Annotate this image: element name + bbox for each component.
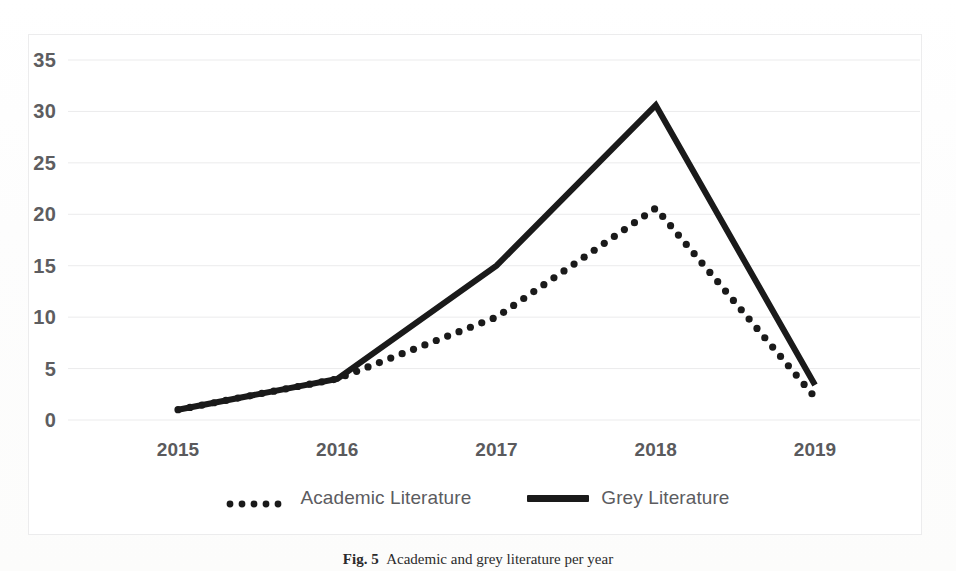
solid-line-swatch-icon (527, 495, 589, 502)
y-axis-tick-label: 0 (12, 410, 56, 430)
y-axis-tick-label: 30 (12, 101, 56, 121)
figure-caption-prefix: Fig. 5 (343, 551, 379, 567)
y-axis-tick-label: 20 (12, 204, 56, 224)
x-axis-tick-label: 2015 (133, 440, 223, 459)
x-axis-tick-label: 2019 (770, 440, 860, 459)
dotted-line-swatch-icon (226, 494, 288, 502)
legend-item-academic-literature[interactable]: Academic Literature (226, 487, 471, 509)
figure-caption: Fig. 5 Academic and grey literature per … (0, 551, 956, 568)
legend-label-grey-literature: Grey Literature (601, 487, 729, 509)
chart-legend: Academic Literature Grey Literature (0, 487, 956, 509)
y-axis-tick-label: 25 (12, 153, 56, 173)
x-axis-tick-label: 2016 (292, 440, 382, 459)
y-axis-tick-label: 10 (12, 307, 56, 327)
y-axis-tick-label: 5 (12, 359, 56, 379)
figure-caption-text: Academic and grey literature per year (386, 551, 613, 567)
y-axis-tick-label: 35 (12, 50, 56, 70)
y-axis-tick-label: 15 (12, 256, 56, 276)
legend-label-academic-literature: Academic Literature (300, 487, 471, 509)
legend-item-grey-literature[interactable]: Grey Literature (527, 487, 729, 509)
x-axis-tick-label: 2017 (452, 440, 542, 459)
figure-page: 05101520253035 20152016201720182019 Acad… (0, 0, 956, 571)
x-axis-tick-label: 2018 (611, 440, 701, 459)
